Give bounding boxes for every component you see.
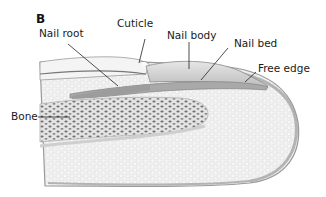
label-nail-body: Nail body	[167, 30, 216, 41]
cuticle-leader	[139, 39, 145, 63]
label-cuticle: Cuticle	[117, 18, 153, 29]
label-free-edge: Free edge	[258, 63, 310, 74]
label-bone: Bone	[11, 111, 38, 122]
nail-anatomy-diagram: B Nail root Cuticle Nail body Nail bed F…	[0, 0, 326, 197]
label-nail-bed: Nail bed	[234, 38, 277, 49]
label-nail-root: Nail root	[39, 28, 84, 39]
panel-letter: B	[36, 13, 45, 25]
